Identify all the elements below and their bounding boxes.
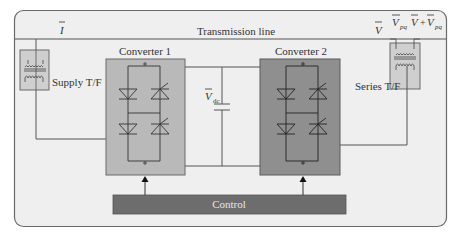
supply-tf-label: Supply T/F [52, 76, 102, 88]
control-block: Control [113, 195, 346, 214]
svg-text:pq: pq [434, 23, 443, 31]
svg-text:pq: pq [399, 23, 408, 31]
diagram-frame [15, 11, 447, 227]
svg-text:+: + [420, 17, 426, 28]
converter-2: Converter 2 [260, 45, 340, 175]
control-label: Control [212, 198, 246, 210]
converter-2-label: Converter 2 [275, 45, 327, 57]
transmission-line-label: Transmission line [197, 25, 275, 37]
converter-1-label: Converter 1 [119, 45, 171, 57]
series-tf-label: Series T/F [355, 80, 400, 92]
svg-text:dc: dc [213, 97, 220, 105]
upfc-diagram: Transmission line I V V pq V + V pq [0, 0, 455, 237]
converter-1: Converter 1 [106, 45, 185, 175]
